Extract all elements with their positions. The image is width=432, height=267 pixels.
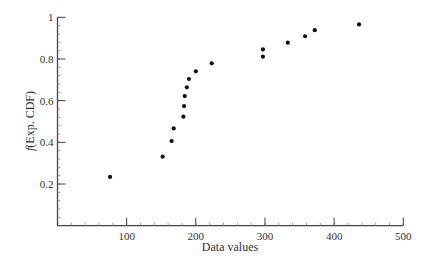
data-point: [210, 61, 214, 65]
y-tick-label: 0.6: [40, 95, 54, 107]
y-tick-label: 1: [48, 11, 54, 23]
y-axis-label-rest: (Exp. CDF): [23, 91, 37, 148]
x-axis-label: Data values: [202, 240, 259, 254]
y-tick-label: 0.2: [40, 178, 54, 190]
data-point: [181, 115, 185, 119]
scatter-chart: 0.20.40.60.81 100200300400500 Data value…: [0, 0, 432, 267]
data-point: [185, 85, 189, 89]
x-tick-label: 300: [257, 230, 274, 242]
y-tick-label: 0.4: [40, 136, 54, 148]
x-axis: 100200300400500: [58, 218, 413, 242]
data-point: [161, 155, 165, 159]
data-point: [357, 22, 361, 26]
data-point: [187, 77, 191, 81]
data-point: [261, 55, 265, 59]
data-point: [313, 28, 317, 32]
data-point: [194, 69, 198, 73]
y-axis: 0.20.40.60.81: [40, 11, 66, 225]
data-point: [286, 41, 290, 45]
x-tick-label: 400: [326, 230, 343, 242]
data-point: [170, 139, 174, 143]
data-point: [172, 126, 176, 130]
data-point: [183, 94, 187, 98]
data-point: [303, 34, 307, 38]
x-tick-label: 100: [118, 230, 135, 242]
y-axis-label: f(Exp. CDF): [23, 91, 37, 151]
data-point: [182, 104, 186, 108]
data-point: [261, 47, 265, 51]
data-point: [108, 175, 112, 179]
x-tick-label: 500: [395, 230, 412, 242]
y-tick-label: 0.8: [40, 53, 54, 65]
data-points: [108, 22, 361, 179]
